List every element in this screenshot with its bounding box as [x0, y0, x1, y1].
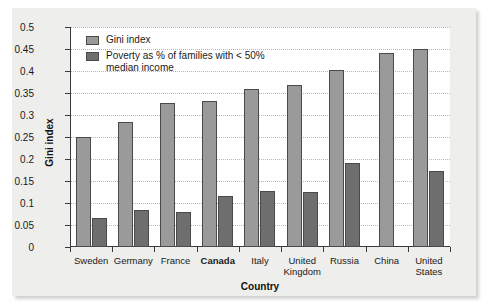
legend-swatch-pov: [86, 52, 99, 61]
y-tick-label: 0.2: [0, 154, 34, 165]
chart-legend: Gini indexPoverty as % of families with …: [86, 34, 265, 78]
bar-poverty: [218, 196, 233, 247]
bar-poverty: [303, 192, 318, 247]
bar-gini: [287, 85, 302, 247]
x-tick-mark: [408, 247, 409, 252]
bar-gini: [202, 101, 217, 247]
y-tick-label: 0.5: [0, 22, 34, 33]
x-tick-mark: [154, 247, 155, 252]
legend-label: Gini index: [106, 34, 150, 46]
y-tick-label: 0.45: [0, 44, 34, 55]
legend-entry: Gini index: [86, 34, 265, 46]
y-tick-label: 0.1: [0, 198, 34, 209]
y-tick-label: 0.35: [0, 88, 34, 99]
bar-group: [408, 27, 450, 247]
y-tick-label: 0.25: [0, 132, 34, 143]
y-tick-label: 0.05: [0, 220, 34, 231]
y-axis-title: Gini index: [44, 78, 55, 208]
bar-gini: [160, 103, 175, 247]
x-tick-mark: [323, 247, 324, 252]
bar-poverty: [92, 218, 107, 247]
chart-figure: 00.050.10.150.20.250.30.350.40.450.5 Gin…: [12, 8, 476, 296]
y-tick-label: 0.3: [0, 110, 34, 121]
bar-group: [323, 27, 365, 247]
x-tick-mark: [281, 247, 282, 252]
bar-group: [281, 27, 323, 247]
legend-label: Poverty as % of families with < 50% medi…: [106, 50, 265, 74]
bar-poverty: [345, 163, 360, 247]
x-axis-title: Country: [70, 281, 450, 292]
bar-poverty: [134, 210, 149, 247]
y-tick-label: 0: [0, 242, 34, 253]
bar-gini: [76, 137, 91, 247]
x-tick-mark: [239, 247, 240, 252]
bar-gini: [244, 89, 259, 247]
x-tick-mark: [366, 247, 367, 252]
bar-gini: [118, 122, 133, 247]
y-tick-label: 0.4: [0, 66, 34, 77]
legend-swatch-gini: [86, 36, 99, 45]
bar-gini: [413, 49, 428, 247]
x-tick-mark: [197, 247, 198, 252]
x-tick-mark: [112, 247, 113, 252]
x-tick-label: United States: [400, 255, 458, 277]
legend-entry: Poverty as % of families with < 50% medi…: [86, 50, 265, 74]
y-tick-label: 0.15: [0, 176, 34, 187]
bar-gini: [329, 70, 344, 247]
bar-poverty: [176, 212, 191, 247]
bar-poverty: [429, 171, 444, 247]
bar-gini: [379, 53, 394, 247]
bar-poverty: [260, 191, 275, 247]
x-tick-mark: [450, 247, 451, 252]
x-tick-mark: [70, 247, 71, 252]
bar-group: [366, 27, 408, 247]
